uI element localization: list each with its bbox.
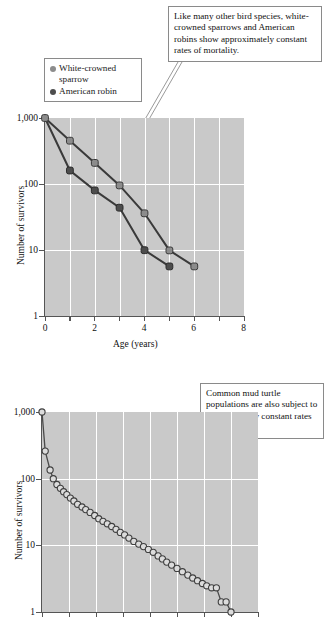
x-tick xyxy=(94,316,95,321)
x-tick xyxy=(258,612,259,617)
x-tick xyxy=(119,316,120,321)
data-point-robin xyxy=(166,263,173,270)
x-axis-title-birds: Age (years) xyxy=(113,339,158,349)
data-point-sparrow xyxy=(42,115,49,122)
mud-turtle-survivorship-figure: Common mud turtle populations are also s… xyxy=(0,355,328,625)
data-point-robin xyxy=(116,204,123,211)
y-tick-label: 1,000 xyxy=(0,113,38,123)
x-tick xyxy=(219,316,220,321)
bird-survivorship-figure: Like many other bird species, white-crow… xyxy=(0,0,328,355)
data-point-mud-turtle xyxy=(228,609,234,615)
y-tick xyxy=(39,316,44,317)
legend-label-sparrow: White-crowned sparrow xyxy=(59,63,135,85)
x-tick xyxy=(42,612,43,617)
x-tick xyxy=(244,316,245,321)
data-point-sparrow xyxy=(67,137,74,144)
legend-item-robin: American robin xyxy=(50,86,135,97)
data-point-robin xyxy=(91,187,98,194)
data-point-sparrow xyxy=(91,160,98,167)
y-axis-title-birds: Number of survivors xyxy=(16,186,26,265)
data-point-mud-turtle xyxy=(42,448,48,454)
x-tick-label: 6 xyxy=(179,323,209,333)
legend-item-sparrow: White-crowned sparrow xyxy=(50,63,135,85)
series-line-robin xyxy=(45,118,169,266)
series-plot-turtles xyxy=(42,412,258,612)
y-tick-label: 1,000 xyxy=(0,407,35,417)
callout-birds: Like many other bird species, white-crow… xyxy=(168,6,322,62)
data-point-sparrow xyxy=(116,182,123,189)
y-tick-label: 1 xyxy=(0,607,35,617)
x-tick xyxy=(169,316,170,321)
data-point-sparrow xyxy=(166,247,173,254)
x-tick-label: 0 xyxy=(30,323,60,333)
series-plot-birds xyxy=(45,118,244,316)
y-tick-label: 1 xyxy=(0,311,38,321)
data-point-sparrow xyxy=(191,263,198,270)
x-tick xyxy=(45,316,46,321)
x-tick-label: 2 xyxy=(80,323,110,333)
legend-swatch-icon-robin xyxy=(50,89,56,95)
x-tick-label: 8 xyxy=(229,323,259,333)
x-tick-label: 4 xyxy=(129,323,159,333)
y-tick xyxy=(36,612,41,613)
x-tick xyxy=(204,612,205,617)
data-point-sparrow xyxy=(141,210,148,217)
legend-swatch-icon-sparrow xyxy=(50,66,56,72)
y-axis-title-turtles: Number of survivors xyxy=(14,481,24,560)
data-point-mud-turtle xyxy=(223,599,229,605)
data-point-mud-turtle xyxy=(213,585,219,591)
x-tick xyxy=(69,316,70,321)
legend-birds: White-crowned sparrow American robin xyxy=(44,58,142,102)
x-tick xyxy=(69,612,70,617)
x-tick xyxy=(96,612,97,617)
data-point-mud-turtle xyxy=(50,476,56,482)
legend-label-robin: American robin xyxy=(59,86,117,97)
data-point-mud-turtle xyxy=(39,409,45,415)
data-point-group-mud-turtle xyxy=(39,409,234,615)
y-tick xyxy=(39,184,44,185)
y-tick xyxy=(36,545,41,546)
x-tick xyxy=(123,612,124,617)
x-tick xyxy=(194,316,195,321)
y-tick xyxy=(39,250,44,251)
x-tick xyxy=(177,612,178,617)
x-tick xyxy=(144,316,145,321)
y-tick xyxy=(36,479,41,480)
data-point-mud-turtle xyxy=(47,467,53,473)
x-tick xyxy=(150,612,151,617)
data-point-robin xyxy=(141,247,148,254)
data-point-robin xyxy=(67,167,74,174)
